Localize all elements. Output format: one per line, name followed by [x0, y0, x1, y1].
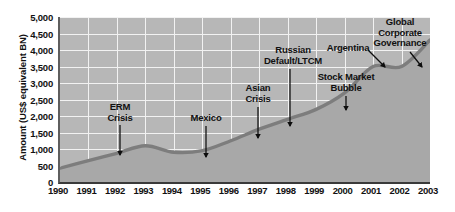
- y-axis-tick: 4,000: [30, 45, 53, 56]
- x-axis-tick: 2002: [390, 185, 410, 196]
- x-axis-tick: 1994: [162, 185, 182, 196]
- y-axis-tick: 3,500: [30, 61, 53, 72]
- x-axis-tick: 1998: [276, 185, 296, 196]
- x-axis-tick: 1999: [304, 185, 324, 196]
- y-axis-tick: 500: [38, 160, 53, 171]
- y-axis-tick: 2,500: [30, 94, 53, 105]
- y-axis-tick: 1,000: [30, 144, 53, 155]
- x-axis-tick: 1990: [48, 185, 68, 196]
- x-axis-tick: 1997: [247, 185, 267, 196]
- x-axis-tick: 1991: [76, 185, 96, 196]
- x-axis-tick: 2003: [418, 185, 438, 196]
- chart-container: Amount (US$ equivalent BN) 5,0004,5004,0…: [0, 0, 455, 212]
- y-axis-tick: 2,000: [30, 111, 53, 122]
- plot-area: [58, 17, 430, 184]
- y-axis-tick: 3,000: [30, 78, 53, 89]
- y-axis-tick: 1,500: [30, 127, 53, 138]
- x-axis-tick: 2000: [333, 185, 353, 196]
- x-axis-tick: 1993: [133, 185, 153, 196]
- x-axis-tick: 1995: [190, 185, 210, 196]
- area-fill-path: [60, 40, 430, 182]
- y-axis-tick: 5,000: [30, 12, 53, 23]
- y-axis-tick: 4,500: [30, 28, 53, 39]
- x-axis-tick: 1996: [219, 185, 239, 196]
- x-axis-tick: 2001: [361, 185, 381, 196]
- x-axis-tick: 1992: [105, 185, 125, 196]
- x-axis-tick-labels: 1990199119921993199419951996199719981999…: [0, 185, 455, 207]
- series-line-area: [60, 17, 430, 182]
- y-axis-tick-labels: 5,0004,5004,0003,5003,0002,5002,0001,500…: [0, 0, 56, 212]
